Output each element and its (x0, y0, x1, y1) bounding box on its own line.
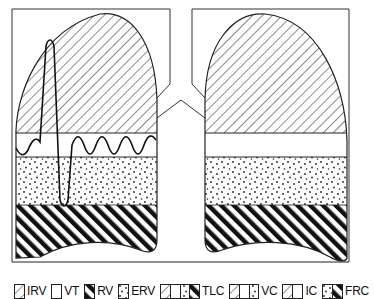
right-erv-region (181, 157, 362, 205)
tlc-swatch-icon (160, 284, 200, 299)
legend-item-tlc: TLC (160, 284, 224, 299)
legend-item-vc: VC (229, 284, 277, 299)
light-hatch-swatch-icon (14, 284, 25, 299)
frc-swatch-icon (322, 284, 343, 299)
vc-swatch-icon (229, 284, 259, 299)
right-irv-region (181, 0, 362, 133)
right-vt-region (181, 133, 362, 157)
dots-swatch-icon (118, 284, 129, 299)
bold-hatch-swatch-icon (84, 284, 95, 299)
legend-label: ERV (131, 284, 155, 298)
legend-item-irv: IRV (14, 284, 46, 299)
blank-swatch-icon (51, 284, 62, 299)
legend-label: VC (261, 284, 277, 298)
legend-label: VT (64, 284, 79, 298)
legend-item-frc: FRC (322, 284, 369, 299)
ic-swatch-icon (282, 284, 303, 299)
left-erv-region (0, 157, 181, 205)
legend-item-erv: ERV (118, 284, 155, 299)
legend-item-vt: VT (51, 284, 79, 299)
legend-label: TLC (202, 284, 224, 298)
legend-label: FRC (345, 284, 369, 298)
legend-label: IRV (27, 284, 46, 298)
legend-item-rv: RV (84, 284, 113, 299)
lung-volumes-diagram (0, 0, 362, 283)
right-lung (181, 0, 362, 265)
left-lung (0, 0, 181, 265)
legend: IRV VT RV ERV TLC VC IC (14, 283, 374, 299)
right-rv-region (181, 205, 362, 265)
legend-label: RV (97, 284, 113, 298)
left-irv-region (0, 0, 181, 133)
legend-label: IC (305, 284, 317, 298)
legend-item-ic: IC (282, 284, 317, 299)
left-rv-region (0, 205, 181, 265)
